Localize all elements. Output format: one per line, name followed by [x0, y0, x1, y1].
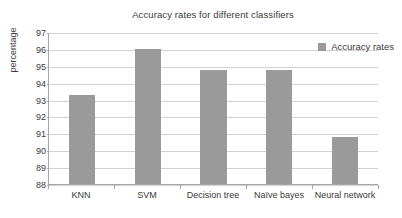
x-tick-mark: [378, 185, 379, 189]
bar[interactable]: [266, 70, 292, 184]
x-tick-label: Decision tree: [187, 190, 240, 200]
legend: Accuracy rates: [318, 41, 394, 52]
x-tick-mark: [48, 185, 49, 189]
bar-slot: [49, 33, 115, 184]
x-tick-label: Neural network: [315, 190, 376, 200]
y-tick-label: 95: [26, 62, 46, 72]
x-tick-mark: [312, 185, 313, 189]
bar-slot: [312, 33, 378, 184]
y-tick-label: 93: [26, 96, 46, 106]
bar[interactable]: [332, 137, 358, 184]
bar[interactable]: [200, 70, 226, 184]
x-tick-mark: [114, 185, 115, 189]
x-tick-mark: [246, 185, 247, 189]
legend-swatch-accuracy-rates: [318, 43, 326, 51]
y-tick-label: 94: [26, 79, 46, 89]
y-tick-label: 90: [26, 146, 46, 156]
x-tick-label: Naïve bayes: [254, 190, 304, 200]
y-tick-label: 88: [26, 180, 46, 190]
bar-slot: [246, 33, 312, 184]
legend-label-accuracy-rates: Accuracy rates: [331, 41, 394, 52]
y-axis-label: percentage: [8, 17, 18, 83]
bar[interactable]: [69, 95, 95, 184]
chart-title: Accuracy rates for different classifiers: [48, 9, 378, 20]
bar-slot: [181, 33, 247, 184]
y-tick-label: 97: [26, 28, 46, 38]
bar-slot: [115, 33, 181, 184]
bar[interactable]: [135, 49, 161, 184]
y-tick-label: 96: [26, 45, 46, 55]
x-tick-mark: [180, 185, 181, 189]
x-axis-labels: KNNSVMDecision treeNaïve bayesNeural net…: [48, 190, 378, 208]
plot-area: [48, 33, 378, 185]
x-tick-label: SVM: [137, 190, 157, 200]
bar-chart: Accuracy rates for different classifiers…: [0, 0, 402, 218]
y-tick-label: 91: [26, 129, 46, 139]
y-tick-label: 92: [26, 112, 46, 122]
y-axis-ticks: 88899091929394959697: [22, 33, 46, 185]
x-tick-label: KNN: [71, 190, 90, 200]
bars-layer: [49, 33, 378, 184]
y-tick-label: 89: [26, 163, 46, 173]
